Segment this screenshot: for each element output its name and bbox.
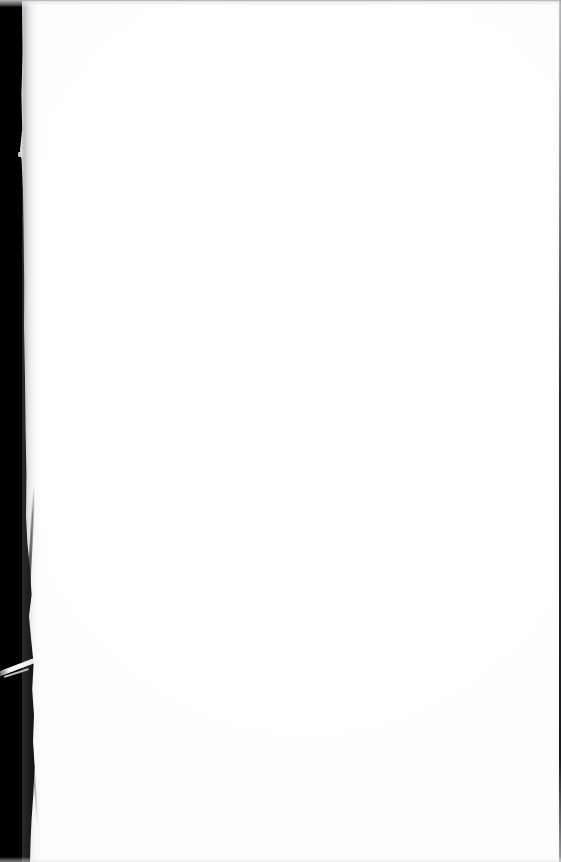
scanned-page <box>0 0 561 862</box>
page-content-area <box>46 8 556 856</box>
